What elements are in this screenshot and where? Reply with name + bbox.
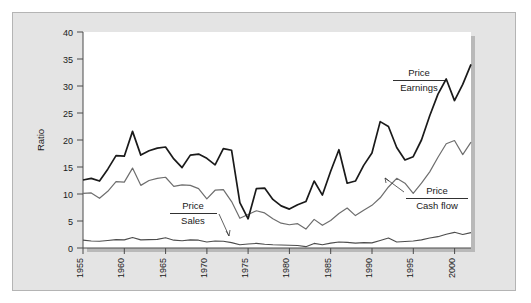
x-tick-label-1995: 1995 bbox=[405, 258, 415, 278]
price-ratio-line-chart: 0 5 10 15 20 25 30 35 40 Ratio bbox=[0, 0, 531, 303]
x-tick-label-2000: 2000 bbox=[447, 258, 457, 278]
x-tick-label-1960: 1960 bbox=[116, 258, 126, 278]
y-axis-title: Ratio bbox=[35, 129, 46, 151]
y-tick-label-5: 5 bbox=[68, 217, 73, 227]
y-tick-label-40: 40 bbox=[63, 28, 73, 38]
x-tick-label-1980: 1980 bbox=[281, 258, 291, 278]
y-axis-tick-labels: 0 5 10 15 20 25 30 35 40 bbox=[63, 28, 73, 254]
x-tick-label-1970: 1970 bbox=[199, 258, 209, 278]
price-cashflow-denominator: Cash flow bbox=[416, 200, 458, 211]
price-earnings-denominator: Earnings bbox=[400, 82, 438, 93]
y-tick-label-0: 0 bbox=[68, 244, 73, 254]
x-tick-label-1985: 1985 bbox=[323, 258, 333, 278]
price-sales-denominator: Sales bbox=[181, 215, 205, 226]
x-tick-label-1975: 1975 bbox=[240, 258, 250, 278]
x-axis-tick-labels: 1955 1960 1965 1970 1975 1980 1985 1990 … bbox=[75, 258, 457, 278]
price-earnings-numerator: Price bbox=[408, 67, 430, 78]
y-axis: 0 5 10 15 20 25 30 35 40 Ratio bbox=[35, 28, 83, 254]
y-tick-label-25: 25 bbox=[63, 109, 73, 119]
x-tick-label-1990: 1990 bbox=[364, 258, 374, 278]
y-tick-label-15: 15 bbox=[63, 163, 73, 173]
y-tick-label-35: 35 bbox=[63, 55, 73, 65]
y-tick-label-20: 20 bbox=[63, 136, 73, 146]
price-sales-numerator: Price bbox=[182, 200, 204, 211]
x-tick-label-1965: 1965 bbox=[158, 258, 168, 278]
y-tick-label-10: 10 bbox=[63, 190, 73, 200]
x-axis: 1955 1960 1965 1970 1975 1980 1985 1990 … bbox=[75, 248, 471, 278]
x-tick-label-1955: 1955 bbox=[75, 258, 85, 278]
y-tick-label-30: 30 bbox=[63, 82, 73, 92]
plot-area-background bbox=[83, 32, 471, 248]
price-cashflow-numerator: Price bbox=[426, 185, 448, 196]
y-axis-ticks bbox=[77, 32, 83, 248]
chart-figure: 0 5 10 15 20 25 30 35 40 Ratio bbox=[0, 0, 531, 303]
